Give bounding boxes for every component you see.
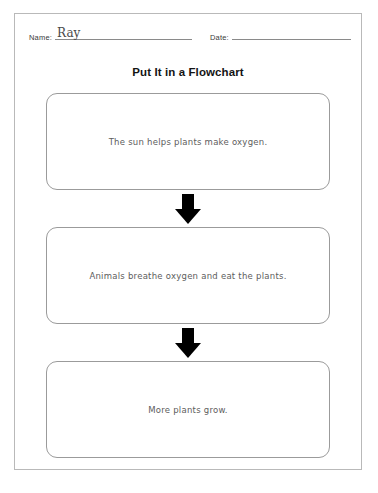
flowchart-step-2-text: Animals breathe oxygen and eat the plant… [73,271,302,281]
date-write-line[interactable] [232,28,351,40]
arrow-down-icon [175,194,201,224]
name-value: Ray [57,27,80,39]
arrow-head [175,209,201,224]
arrow-shaft [182,194,194,210]
arrow-down-icon [175,328,201,358]
date-field[interactable]: Date: [192,28,361,42]
flowchart-step-3-text: More plants grow. [132,405,244,415]
arrow-head [175,343,201,358]
date-label: Date: [210,33,229,42]
flowchart-step-3[interactable]: More plants grow. [46,361,330,458]
footer-cutoff-text [16,486,356,493]
name-field[interactable]: Name: Ray [15,28,192,42]
worksheet-header: Name: Ray Date: [15,14,361,42]
flowchart-step-2[interactable]: Animals breathe oxygen and eat the plant… [46,227,330,324]
flowchart-connector-2 [15,324,361,361]
flowchart-connector-1 [15,190,361,227]
arrow-shaft [182,328,194,344]
name-write-line[interactable]: Ray [55,28,192,40]
page-title: Put It in a Flowchart [15,66,361,78]
name-label: Name: [29,33,52,42]
worksheet-page: Name: Ray Date: Put It in a Flowchart Th… [14,13,362,470]
flowchart: The sun helps plants make oxygen. Animal… [15,93,361,458]
flowchart-step-1[interactable]: The sun helps plants make oxygen. [46,93,330,190]
flowchart-step-1-text: The sun helps plants make oxygen. [93,137,284,147]
